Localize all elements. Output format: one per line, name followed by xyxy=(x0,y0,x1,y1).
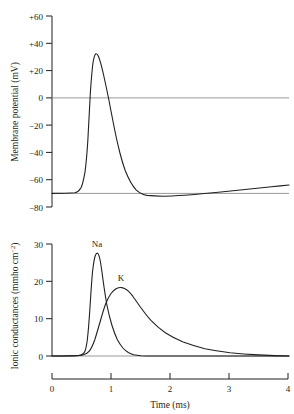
x-ticklabel-0: 0 xyxy=(50,384,55,394)
x-ticklabel-2: 2 xyxy=(168,384,173,394)
top-ticklabel-60: +60 xyxy=(29,12,44,22)
na-conductance-curve xyxy=(52,253,289,356)
bottom-y-axis-title: Ionic conductances (mmho cm−2) xyxy=(9,243,21,370)
top-ticklabel-neg60: −60 xyxy=(29,175,44,185)
x-axis-title: Time (ms) xyxy=(150,400,190,411)
bottom-y-axis-title-superscript: −2 xyxy=(9,246,16,253)
bottom-y-axis-title-close: ) xyxy=(10,243,21,246)
x-ticklabel-1: 1 xyxy=(109,384,114,394)
figure-canvas: +60 +40 +20 0 −20 −40 −60 −80 Membrane p… xyxy=(0,0,294,414)
top-ticklabel-0: 0 xyxy=(39,93,44,103)
k-conductance-curve xyxy=(52,288,289,356)
action-potential-figure: +60 +40 +20 0 −20 −40 −60 −80 Membrane p… xyxy=(0,0,294,414)
x-ticklabel-3: 3 xyxy=(227,384,232,394)
top-panel-membrane-potential: +60 +40 +20 0 −20 −40 −60 −80 xyxy=(29,12,289,213)
action-potential-curve xyxy=(52,54,289,196)
top-ticklabel-20: +20 xyxy=(29,66,44,76)
top-ticklabel-neg40: −40 xyxy=(29,148,44,158)
bottom-y-axis-title-main: Ionic conductances (mmho cm xyxy=(10,252,21,369)
top-ticklabel-neg80: −80 xyxy=(29,203,44,213)
bottom-ticklabel-30: 30 xyxy=(34,240,44,250)
x-ticklabel-4: 4 xyxy=(286,384,291,394)
bottom-ticklabel-10: 10 xyxy=(34,314,44,324)
shared-x-axis: 0 1 2 3 4 Time (ms) xyxy=(50,373,291,411)
bottom-ticklabel-20: 20 xyxy=(34,277,44,287)
top-ticklabel-40: +40 xyxy=(29,39,44,49)
top-y-axis-title: Membrane potential (mV) xyxy=(10,62,21,162)
top-ticklabel-neg20: −20 xyxy=(29,121,44,131)
na-curve-label: Na xyxy=(92,239,103,249)
bottom-ticklabel-0: 0 xyxy=(39,352,44,362)
k-curve-label: K xyxy=(118,273,125,283)
bottom-panel-ionic-conductances: 30 20 10 0 Na K xyxy=(34,239,289,362)
